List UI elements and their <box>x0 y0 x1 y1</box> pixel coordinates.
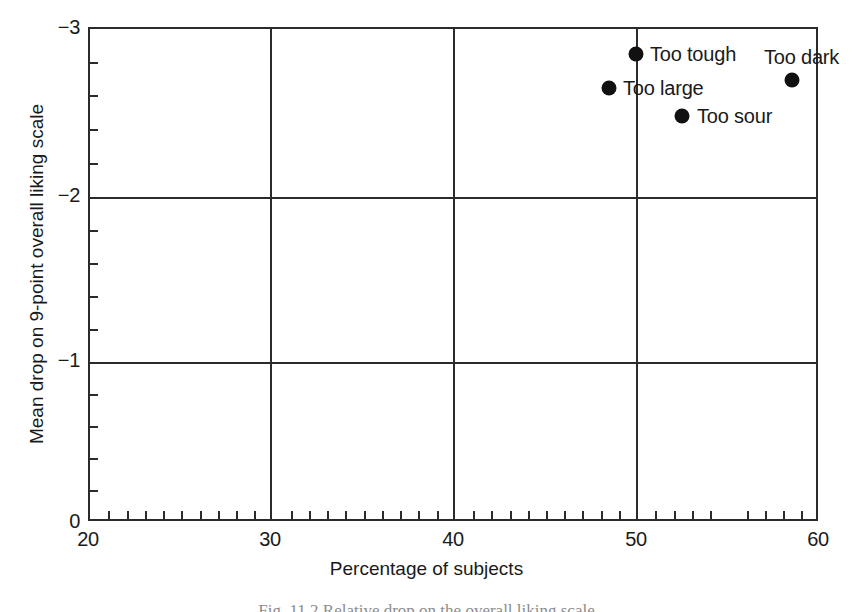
data-point-too-large[interactable] <box>602 81 617 96</box>
x-minor-tick <box>181 511 183 520</box>
y-minor-tick <box>89 296 98 298</box>
x-tick-label-40: 40 <box>442 528 464 551</box>
y-minor-tick <box>89 329 98 331</box>
gridline-y-minus1 <box>90 362 816 364</box>
x-tick-label-60: 60 <box>807 528 829 551</box>
x-minor-tick <box>163 511 165 520</box>
y-axis-title: Mean drop on 9-point overall liking scal… <box>26 27 54 521</box>
y-minor-tick <box>89 163 98 165</box>
x-minor-tick <box>692 511 694 520</box>
x-minor-tick <box>564 511 566 520</box>
x-minor-tick <box>601 511 603 520</box>
data-point-too-tough[interactable] <box>629 47 644 62</box>
x-minor-tick <box>619 511 621 520</box>
plot-area: Too tough Too large Too sour Too dark <box>88 27 818 521</box>
y-minor-tick <box>89 263 98 265</box>
y-minor-tick <box>89 458 98 460</box>
x-minor-tick <box>309 511 311 520</box>
figure-container: Too tough Too large Too sour Too dark 20… <box>0 0 853 612</box>
x-minor-tick <box>546 511 548 520</box>
x-minor-tick <box>747 511 749 520</box>
gridline-x-30 <box>270 29 272 519</box>
data-point-label-too-tough: Too tough <box>650 43 736 66</box>
x-minor-tick <box>364 511 366 520</box>
y-minor-tick <box>89 426 98 428</box>
x-minor-tick <box>145 511 147 520</box>
x-minor-tick <box>491 511 493 520</box>
data-point-label-too-large: Too large <box>623 77 703 100</box>
x-minor-tick <box>200 511 202 520</box>
x-tick-label-20: 20 <box>77 528 99 551</box>
x-minor-tick <box>528 511 530 520</box>
y-minor-tick <box>89 230 98 232</box>
x-minor-tick <box>710 511 712 520</box>
x-minor-tick <box>236 511 238 520</box>
y-minor-tick <box>89 95 98 97</box>
x-minor-tick <box>437 511 439 520</box>
x-minor-tick <box>291 511 293 520</box>
data-point-too-dark[interactable] <box>785 73 800 88</box>
data-point-too-sour[interactable] <box>675 109 690 124</box>
x-minor-tick <box>801 511 803 520</box>
y-minor-tick <box>89 62 98 64</box>
x-axis-title: Percentage of subjects <box>0 558 853 580</box>
y-minor-tick <box>89 129 98 131</box>
x-minor-tick <box>655 511 657 520</box>
x-minor-tick <box>582 511 584 520</box>
gridline-x-40 <box>453 29 455 519</box>
x-minor-tick <box>218 511 220 520</box>
gridline-y-minus2 <box>90 197 816 199</box>
x-minor-tick <box>674 511 676 520</box>
x-minor-tick <box>400 511 402 520</box>
y-minor-tick <box>89 490 98 492</box>
x-minor-tick <box>418 511 420 520</box>
y-minor-tick <box>89 394 98 396</box>
x-minor-tick <box>345 511 347 520</box>
x-minor-tick <box>108 511 110 520</box>
x-minor-tick <box>783 511 785 520</box>
x-minor-tick <box>765 511 767 520</box>
x-minor-tick <box>254 511 256 520</box>
figure-caption: Fig. 11.2 Relative drop on the overall l… <box>0 601 853 612</box>
gridline-x-50 <box>636 29 638 519</box>
data-point-label-too-sour: Too sour <box>697 105 772 128</box>
x-minor-tick <box>382 511 384 520</box>
x-tick-label-50: 50 <box>625 528 647 551</box>
x-minor-tick <box>510 511 512 520</box>
x-minor-tick <box>473 511 475 520</box>
x-tick-label-30: 30 <box>259 528 281 551</box>
data-point-label-too-dark: Too dark <box>764 46 839 69</box>
x-minor-tick <box>127 511 129 520</box>
x-minor-tick <box>327 511 329 520</box>
